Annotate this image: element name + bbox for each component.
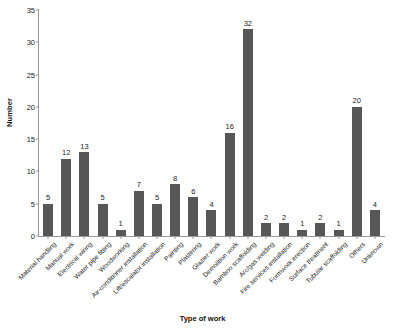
bar-value-label: 12	[62, 148, 70, 157]
bar-slot: 16	[221, 10, 239, 236]
bar-value-label: 5	[100, 193, 104, 202]
bar-value-label: 5	[155, 193, 159, 202]
bar-value-label: 1	[337, 219, 341, 228]
bar-value-label: 20	[353, 96, 361, 105]
bar	[370, 210, 380, 236]
x-axis-category-labels: Material handlingManual workElectrical w…	[39, 239, 384, 309]
bar-slot: 1	[112, 10, 130, 236]
bar-slot: 2	[257, 10, 275, 236]
bar-value-label: 4	[209, 200, 213, 209]
y-axis-title: Number	[5, 83, 14, 143]
bar-value-label: 1	[119, 219, 123, 228]
bar-value-label: 2	[318, 213, 322, 222]
plot-area: 05101520253035 512135175864163222121204	[39, 10, 384, 236]
bar-value-label: 2	[264, 213, 268, 222]
bar-value-label: 5	[46, 193, 50, 202]
bar-value-label: 8	[173, 174, 177, 183]
bar	[243, 29, 253, 236]
bar-slot: 1	[330, 10, 348, 236]
bar-slot: 5	[39, 10, 57, 236]
bar	[43, 204, 53, 236]
bar-series: 512135175864163222121204	[39, 10, 384, 236]
bar	[315, 223, 325, 236]
bar-slot: 1	[293, 10, 311, 236]
bar-slot: 6	[184, 10, 202, 236]
bar	[206, 210, 216, 236]
bar	[279, 223, 289, 236]
bar	[170, 184, 180, 236]
bar-value-label: 6	[191, 187, 195, 196]
bar	[152, 204, 162, 236]
bar-slot: 5	[148, 10, 166, 236]
bar	[79, 152, 89, 236]
x-axis-title: Type of work	[0, 314, 405, 323]
bar-value-label: 2	[282, 213, 286, 222]
bar-slot: 2	[311, 10, 329, 236]
bar	[261, 223, 271, 236]
bar-value-label: 13	[80, 142, 88, 151]
bar-value-label: 32	[244, 19, 252, 28]
bar-slot: 13	[75, 10, 93, 236]
bar-slot: 20	[348, 10, 366, 236]
bar-slot: 4	[202, 10, 220, 236]
bar-value-label: 1	[300, 219, 304, 228]
bar	[352, 107, 362, 236]
bar-slot: 4	[366, 10, 384, 236]
bar	[225, 133, 235, 236]
bar-slot: 2	[275, 10, 293, 236]
bar-slot: 5	[93, 10, 111, 236]
bar-slot: 7	[130, 10, 148, 236]
bar-slot: 8	[166, 10, 184, 236]
bar-slot: 12	[57, 10, 75, 236]
bar	[134, 191, 144, 236]
bar-chart: Number 05101520253035 512135175864163222…	[0, 0, 405, 334]
bar-value-label: 7	[137, 180, 141, 189]
bar-value-label: 4	[373, 200, 377, 209]
bar-value-label: 16	[225, 122, 233, 131]
bar	[188, 197, 198, 236]
bar	[61, 159, 71, 236]
bar	[98, 204, 108, 236]
bar-slot: 32	[239, 10, 257, 236]
